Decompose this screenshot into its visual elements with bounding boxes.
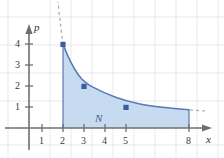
y-axis [25, 24, 32, 150]
y-tick-label-1: 1 [15, 102, 20, 112]
y-tick-label-2: 2 [15, 81, 20, 91]
y-tick-label-4: 4 [15, 39, 20, 49]
data-point-5-1 [123, 105, 128, 110]
y-tick-label-3: 3 [15, 60, 20, 70]
data-point-3-2 [81, 84, 86, 89]
x-tick-label-5: 5 [123, 136, 128, 146]
dashed-asymptote-extension [58, 2, 63, 44]
region-label-N: N [95, 113, 102, 124]
figure-container: 1 2 3 4 1 2 3 4 5 8 p x N [0, 0, 224, 158]
dashed-tail-extension [190, 110, 206, 111]
y-axis-label: p [34, 22, 40, 33]
x-tick-label-4: 4 [102, 136, 107, 146]
x-tick-label-2: 2 [60, 136, 65, 146]
x-tick-label-1: 1 [39, 136, 44, 146]
data-point-2-4 [60, 42, 65, 47]
x-axis-label: x [206, 134, 211, 145]
x-tick-label-3: 3 [81, 136, 86, 146]
x-tick-label-8: 8 [186, 136, 191, 146]
